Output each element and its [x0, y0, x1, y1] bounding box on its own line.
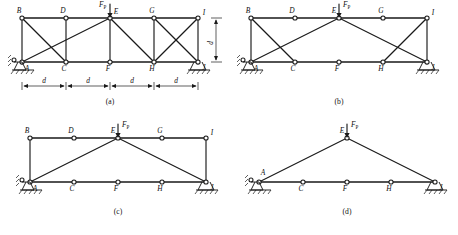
panel-c-label-H: H: [156, 184, 163, 193]
panel-c-load-label: FP: [121, 120, 130, 130]
panel-a-span-label-3: d: [130, 76, 134, 85]
panel-c-label-C: C: [70, 184, 75, 193]
panel-c-label-F: F: [113, 184, 119, 193]
panel-a-height-label: d: [206, 41, 215, 45]
panel-d-label-H: H: [385, 184, 392, 193]
panel-b-nodes: [249, 16, 429, 64]
panel-a-load-arrow: [107, 4, 112, 18]
panel-a-caption: (a): [106, 97, 115, 106]
panel-d-label-E: E: [339, 126, 345, 135]
panel-a-label-G: G: [149, 6, 155, 15]
panel-c-label-B: B: [25, 126, 30, 135]
panel-c-nodes: [28, 136, 208, 184]
panel-a-label-A: A: [24, 64, 30, 73]
panel-b-label-H: H: [377, 64, 384, 73]
panel-b-label-I: I: [431, 8, 435, 17]
panel-b-label-C: C: [291, 64, 296, 73]
panel-b: B D E G I A C F H J FP: [237, 0, 439, 106]
panel-b-diagonals: [251, 18, 427, 62]
panel-b-label-G: G: [378, 6, 384, 15]
panel-b-label-A: A: [253, 64, 259, 73]
panel-a-span-dimensions: d d d d: [22, 76, 198, 90]
panel-a-label-H: H: [148, 64, 155, 73]
panel-b-label-B: B: [246, 6, 251, 15]
panel-b-label-E: E: [331, 6, 337, 15]
panel-a-span-label-2: d: [86, 76, 90, 85]
panel-b-load-arrow: [336, 4, 341, 18]
panel-a-label-I: I: [202, 8, 206, 17]
panel-a-label-B: B: [17, 6, 22, 15]
panel-c-verticals: [30, 138, 206, 182]
panel-c-label-I: I: [210, 128, 214, 137]
panel-a-label-E: E: [113, 7, 119, 16]
panel-d-load-arrow: [344, 124, 349, 138]
panel-d-nodes: [257, 136, 437, 184]
panel-d-load-label: FP: [350, 120, 359, 130]
panel-d-label-F: F: [342, 184, 348, 193]
panel-d-diagonals: [259, 138, 435, 182]
panel-a-load-label: FP: [98, 0, 107, 10]
panel-b-label-F: F: [334, 64, 340, 73]
panel-d-label-A: A: [260, 168, 266, 177]
panel-c-load-arrow: [115, 124, 120, 138]
panel-c: B D E G I A C F H J FP: [16, 120, 218, 216]
panel-a-span-label-1: d: [42, 76, 46, 85]
panel-a-verticals: [22, 18, 198, 62]
panel-c-diagonals: [30, 138, 206, 182]
panel-a-span-label-4: d: [174, 76, 178, 85]
panel-c-label-E: E: [110, 126, 116, 135]
panel-d: E A C F H J FP: [245, 120, 447, 216]
panel-c-label-G: G: [157, 126, 163, 135]
panel-b-caption: (b): [335, 97, 344, 106]
panel-d-caption: (d): [343, 207, 352, 216]
panel-a: B D E G I A C F H J FP: [8, 0, 222, 106]
panel-c-caption: (c): [114, 207, 123, 216]
panel-a-height-dimension: d: [206, 18, 222, 62]
panel-b-load-label: FP: [342, 0, 351, 10]
panel-b-label-D: D: [288, 6, 295, 15]
truss-figure: B D E G I A C F H J FP: [0, 0, 458, 235]
panel-a-label-D: D: [59, 6, 66, 15]
panel-b-verticals: [251, 18, 427, 62]
panel-a-label-C: C: [62, 64, 67, 73]
panel-a-label-F: F: [105, 64, 111, 73]
panel-c-label-D: D: [67, 126, 74, 135]
panel-c-label-A: A: [32, 184, 38, 193]
panel-d-label-C: C: [299, 184, 304, 193]
